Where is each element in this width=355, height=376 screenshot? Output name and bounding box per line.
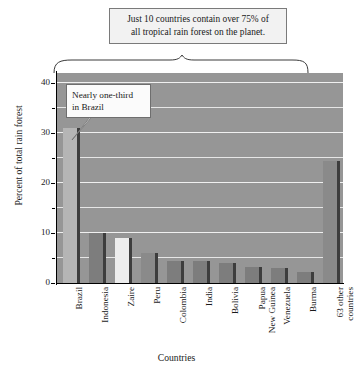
y-tick-label-30: 30: [32, 127, 50, 137]
bar-face: [219, 263, 233, 283]
bar-side-shadow: [103, 233, 106, 283]
bar-face: [271, 268, 285, 283]
bar-venezuela: [271, 268, 285, 283]
y-tick-5: [52, 258, 55, 259]
x-tick-label-line: Brazil: [74, 287, 84, 347]
x-tick-label-line: New Guinea: [267, 287, 277, 347]
y-tick-label-40: 40: [32, 77, 50, 87]
gridline-25: [57, 157, 343, 158]
x-tick-label-papua-new-guinea: PapuaNew Guinea: [257, 287, 277, 347]
y-axis-tick-labels: 010203040: [26, 0, 50, 376]
y-tick-40: [51, 83, 55, 84]
x-tick-label-line: Venezuela: [282, 287, 292, 347]
bar-side-shadow: [155, 253, 158, 283]
x-tick-label-india: India: [204, 287, 214, 347]
x-tick-label-line: Colombia: [178, 287, 188, 347]
bar-face: [245, 267, 259, 284]
x-axis-line: [56, 283, 344, 284]
x-tick-label-bolivia: Bolivia: [230, 287, 240, 347]
bar-india: [193, 261, 207, 284]
x-tick-label-line: Bolivia: [230, 287, 240, 347]
x-tick-label-line: 63 other: [335, 287, 345, 347]
gridline-40: [57, 82, 343, 83]
bar-peru: [141, 253, 155, 283]
x-tick-label-line: Peru: [152, 287, 162, 347]
bar-face: [63, 128, 77, 283]
bar-side-shadow: [181, 261, 184, 284]
brazil-annotation-line-1: Nearly one-third: [72, 89, 145, 101]
x-tick-label-colombia: Colombia: [178, 287, 188, 347]
bar-papua-new-guinea: [245, 267, 259, 284]
bar-side-shadow: [207, 261, 210, 284]
x-tick-label-line: Papua: [257, 287, 267, 347]
x-axis-title: Countries: [0, 352, 353, 363]
brazil-annotation-line-2: in Brazil: [72, 101, 145, 113]
x-tick-label-line: Zaire: [126, 287, 136, 347]
bar-burma: [297, 272, 311, 283]
brace-icon: [52, 54, 312, 74]
y-tick-30: [51, 133, 55, 134]
top-annotation-box: Just 10 countries contain over 75% of al…: [109, 8, 287, 44]
gridline-20: [57, 182, 343, 183]
y-tick-label-0: 0: [32, 277, 50, 287]
y-axis-line: [56, 71, 57, 285]
x-tick-label-peru: Peru: [152, 287, 162, 347]
x-tick-label-line: Indonesia: [100, 287, 110, 347]
top-annotation-line-1: Just 10 countries contain over 75% of: [115, 13, 281, 26]
brazil-annotation-box: Nearly one-third in Brazil: [66, 84, 151, 118]
x-tick-label-indonesia: Indonesia: [100, 287, 110, 347]
y-tick-25: [52, 158, 55, 159]
x-tick-label-zaire: Zaire: [126, 287, 136, 347]
x-tick-label-burma: Burma: [308, 287, 318, 347]
bar-63-other-countries: [323, 161, 337, 284]
y-tick-label-10: 10: [32, 227, 50, 237]
bar-side-shadow: [311, 272, 314, 283]
x-tick-label-line: India: [204, 287, 214, 347]
y-tick-label-20: 20: [32, 177, 50, 187]
bar-face: [167, 261, 181, 284]
y-tick-0: [51, 283, 55, 284]
x-tick-label-brazil: Brazil: [74, 287, 84, 347]
gridline-15: [57, 207, 343, 208]
y-tick-35: [52, 108, 55, 109]
x-tick-label-line: countries: [345, 287, 355, 347]
bar-side-shadow: [259, 267, 262, 284]
bar-indonesia: [89, 233, 103, 283]
bar-face: [323, 161, 337, 284]
bar-brazil: [63, 128, 77, 283]
x-tick-label-venezuela: Venezuela: [282, 287, 292, 347]
bar-side-shadow: [77, 128, 80, 283]
bar-face: [141, 253, 155, 283]
y-tick-20: [51, 183, 55, 184]
bar-side-shadow: [129, 238, 132, 283]
bar-side-shadow: [285, 268, 288, 283]
x-tick-label-line: Burma: [308, 287, 318, 347]
y-axis-title: Percent of total rain forest: [13, 86, 24, 226]
bar-face: [193, 261, 207, 284]
y-tick-10: [51, 233, 55, 234]
bar-bolivia: [219, 263, 233, 283]
y-tick-15: [52, 208, 55, 209]
bar-colombia: [167, 261, 181, 284]
x-tick-label-63-other-countries: 63 othercountries: [335, 287, 355, 347]
bar-side-shadow: [337, 161, 340, 284]
bar-side-shadow: [233, 263, 236, 283]
bar-face: [89, 233, 103, 283]
bar-face: [297, 272, 311, 283]
top-annotation-line-2: all tropical rain forest on the planet.: [115, 26, 281, 39]
bar-zaire: [115, 238, 129, 283]
bar-face: [115, 238, 129, 283]
